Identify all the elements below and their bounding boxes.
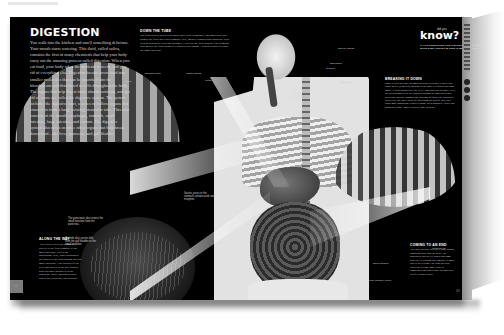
side-tab-text — [464, 24, 470, 72]
coming-to-an-end-body: The large intestine acts like a giant sp… — [410, 248, 455, 276]
tab-dot-icon — [464, 87, 470, 93]
breaking-it-down-heading: BREAKING IT DOWN — [385, 77, 422, 81]
label-muscle: Muscle — [124, 80, 132, 83]
book-shadow — [20, 300, 480, 312]
along-the-way-heading: ALONG THE WAY — [39, 237, 70, 241]
book-spread: DIGESTION You walk into the kitchen and … — [10, 17, 462, 300]
label-gastric-glands: Gastric glands — [186, 72, 201, 75]
label-large-intestine: Large intestine (colon) — [368, 279, 392, 282]
top-caption — [8, 2, 58, 5]
down-the-tube-body: The food travels down your throat into y… — [140, 34, 230, 53]
label-small-intestine: Small intestine — [373, 262, 389, 265]
breaking-it-down-body: Small cells in intestine the small intes… — [385, 82, 457, 109]
did-you-know-fact: IF YOU STRETCHED OUT THE DIGESTIVE TRACT… — [420, 44, 488, 50]
label-liver: Liver — [328, 76, 333, 79]
page-number-left: 18 — [14, 284, 17, 288]
page-title: DIGESTION — [30, 26, 100, 39]
pelvis-illustration — [248, 279, 348, 300]
label-stomach-lining: Stomach lining — [145, 72, 161, 75]
label-salivary-glands: Salivary glands — [338, 47, 354, 50]
coming-to-an-end-heading: COMING TO AN END — [410, 243, 447, 247]
tab-dot-icon — [464, 79, 470, 85]
intro-paragraph: You walk into the kitchen and smell some… — [30, 40, 130, 138]
pancreatic-duct-caption: The pancreatic duct enters the small int… — [68, 217, 106, 227]
page-curl — [472, 10, 504, 290]
label-gall-bladder: Gall bladder — [340, 81, 353, 84]
page-number-right: 19 — [456, 289, 459, 293]
label-trachea: Trachea — [326, 67, 335, 70]
gastric-juices-caption: Gastric juices in the stomach contain ac… — [184, 192, 216, 202]
label-mouth: Mouth — [205, 79, 219, 82]
along-the-way-body: After food leaves the stomach, it travel… — [39, 243, 82, 281]
tab-dot-icon — [464, 95, 470, 101]
label-esophagus: Esophagus — [330, 62, 342, 65]
did-you-know-title: know? — [420, 29, 459, 42]
